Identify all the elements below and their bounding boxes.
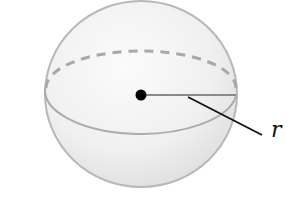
center-point (136, 90, 147, 101)
sphere-diagram: r (0, 0, 301, 197)
radius-label: r (271, 117, 283, 142)
